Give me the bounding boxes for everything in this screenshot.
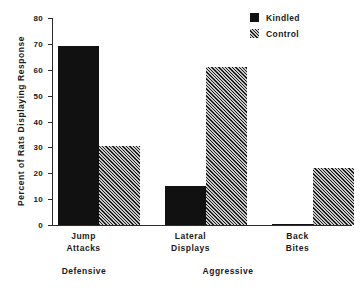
- category-label-jump-attacks: Jump Attacks: [51, 231, 116, 254]
- category-label-back-bites: Back Bites: [265, 231, 330, 254]
- plot-area: 80 70 60 50 40 30 20 10 0: [52, 18, 352, 226]
- category-label-line1: Back: [265, 231, 330, 243]
- y-axis-line: [52, 18, 53, 226]
- y-tick-label-70: 70: [34, 39, 44, 48]
- legend-item-kindled: Kindled: [250, 11, 300, 24]
- bar-control-lateral-displays: [206, 67, 247, 225]
- y-tick-label-30: 30: [34, 143, 44, 152]
- bar-kindled-lateral-displays: [165, 186, 206, 225]
- bar-kindled-back-bites: [272, 224, 313, 225]
- bar-control-back-bites: [313, 168, 354, 225]
- y-tick-label-80: 80: [34, 14, 44, 23]
- y-tick-80: 80: [48, 18, 52, 19]
- y-tick-40: 40: [48, 122, 52, 123]
- y-tick-10: 10: [48, 199, 52, 200]
- y-tick-label-20: 20: [34, 169, 44, 178]
- y-tick-label-0: 0: [38, 221, 43, 230]
- y-tick-label-10: 10: [34, 195, 44, 204]
- legend-swatch-control-icon: [250, 29, 259, 38]
- y-tick-60: 60: [48, 70, 52, 71]
- bar-chart: Percent of Rats Displaying Response 80 7…: [0, 0, 363, 293]
- y-axis-title: Percent of Rats Displaying Response: [16, 21, 26, 221]
- category-label-line1: Lateral: [158, 231, 223, 243]
- group-label-aggressive: Aggressive: [180, 266, 276, 276]
- legend: Kindled Control: [250, 11, 300, 43]
- legend-item-control: Control: [250, 27, 300, 40]
- group-label-defensive: Defensive: [41, 266, 127, 276]
- category-label-line2: Attacks: [51, 243, 116, 255]
- y-tick-label-50: 50: [34, 91, 44, 100]
- y-tick-0: 0: [48, 225, 52, 226]
- y-tick-70: 70: [48, 44, 52, 45]
- legend-label-control: Control: [266, 29, 299, 39]
- y-tick-50: 50: [48, 96, 52, 97]
- category-label-line2: Displays: [158, 243, 223, 255]
- y-tick-30: 30: [48, 147, 52, 148]
- y-tick-label-60: 60: [34, 65, 44, 74]
- legend-swatch-kindled-icon: [250, 13, 259, 22]
- y-tick-20: 20: [48, 173, 52, 174]
- legend-label-kindled: Kindled: [266, 13, 300, 23]
- category-label-line2: Bites: [265, 243, 330, 255]
- category-label-lateral-displays: Lateral Displays: [158, 231, 223, 254]
- bar-control-jump-attacks: [99, 146, 140, 225]
- bar-kindled-jump-attacks: [58, 46, 99, 225]
- category-label-line1: Jump: [51, 231, 116, 243]
- y-tick-label-40: 40: [34, 117, 44, 126]
- x-axis-line: [52, 225, 352, 226]
